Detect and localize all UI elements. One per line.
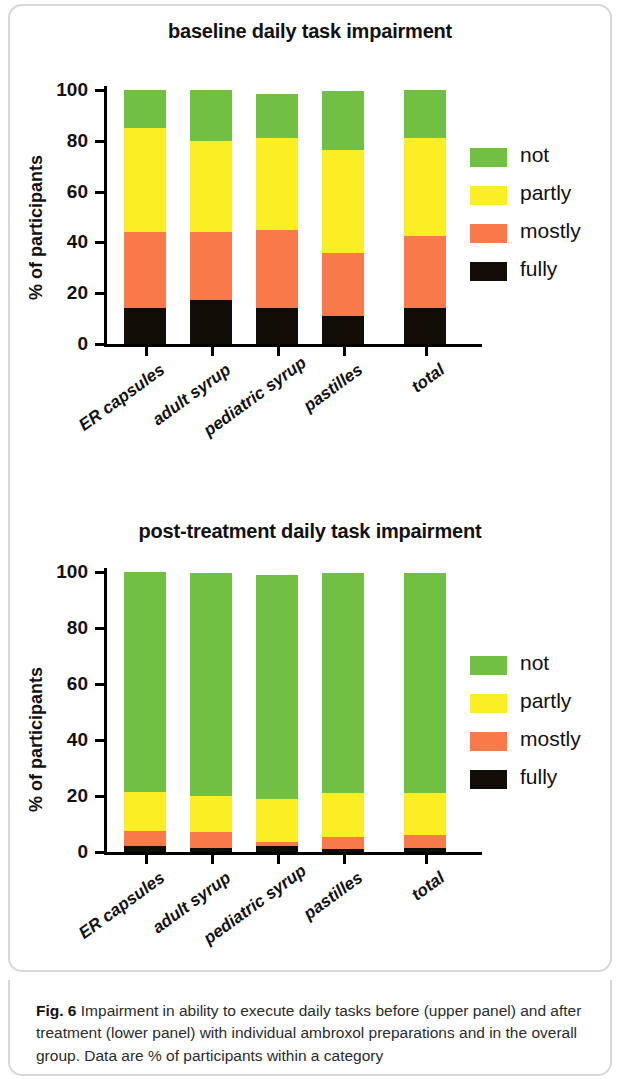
bar-segment-partly <box>190 796 232 832</box>
bar-segment-partly <box>190 141 232 232</box>
bar-pastilles <box>322 90 364 344</box>
legend-swatch-fully <box>470 770 507 789</box>
y-axis-tick <box>95 343 104 346</box>
bar-ER-capsules <box>124 572 166 852</box>
y-axis-tick <box>95 191 104 194</box>
bar-segment-mostly <box>190 232 232 299</box>
legend-label-fully: fully <box>520 257 557 281</box>
bar-segment-mostly <box>256 230 298 309</box>
bar-segment-partly <box>404 138 446 236</box>
bar-segment-not <box>124 572 166 792</box>
bar-segment-fully <box>404 308 446 344</box>
bar-segment-not <box>124 90 166 128</box>
bar-segment-mostly <box>322 253 364 317</box>
bar-segment-partly <box>404 793 446 835</box>
bar-ER-capsules <box>124 90 166 344</box>
figure-page: baseline daily task impairment % of part… <box>0 0 620 1079</box>
bar-segment-fully <box>190 848 232 852</box>
legend-swatch-partly <box>470 186 507 205</box>
x-axis-tick <box>211 855 214 864</box>
bar-segment-not <box>404 90 446 138</box>
bar-segment-mostly <box>124 232 166 308</box>
bar-segment-fully <box>404 848 446 852</box>
y-axis-tick-label: 20 <box>30 282 88 304</box>
y-axis-tick-label: 0 <box>30 841 88 863</box>
figure-caption: Fig. 6 Impairment in ability to execute … <box>36 1000 592 1067</box>
bar-segment-fully <box>322 849 364 852</box>
caption-label: Fig. 6 <box>36 1002 76 1019</box>
bar-pediatric-syrup <box>256 90 298 344</box>
x-axis-tick <box>343 347 346 356</box>
bar-segment-mostly <box>124 831 166 846</box>
legend-swatch-partly <box>470 694 507 713</box>
bar-segment-mostly <box>404 835 446 848</box>
y-axis-tick <box>95 571 104 574</box>
x-axis-tick <box>277 855 280 864</box>
bar-total <box>404 572 446 852</box>
y-axis-line <box>104 86 107 347</box>
y-axis-tick <box>95 140 104 143</box>
bar-segment-fully <box>124 846 166 852</box>
bar-segment-fully <box>256 846 298 852</box>
bar-segment-not <box>322 573 364 793</box>
y-axis-tick-label: 80 <box>30 130 88 152</box>
legend-swatch-fully <box>470 262 507 281</box>
legend-label-not: not <box>520 143 549 167</box>
legend-label-partly: partly <box>520 689 571 713</box>
legend-swatch-mostly <box>470 224 507 243</box>
x-axis-tick <box>425 855 428 864</box>
bar-pastilles <box>322 572 364 852</box>
bar-segment-partly <box>256 138 298 229</box>
y-axis-tick <box>95 292 104 295</box>
y-axis-tick-label: 60 <box>30 673 88 695</box>
x-axis-tick <box>145 347 148 356</box>
y-axis-tick <box>95 739 104 742</box>
legend-label-not: not <box>520 651 549 675</box>
y-axis-tick <box>95 683 104 686</box>
bar-segment-mostly <box>404 236 446 308</box>
y-axis-tick-label: 80 <box>30 617 88 639</box>
bar-adult-syrup <box>190 90 232 344</box>
legend-label-mostly: mostly <box>520 219 581 243</box>
plot-area-baseline: 020406080100ER capsulesadult syruppediat… <box>0 0 620 500</box>
bar-segment-not <box>190 90 232 141</box>
legend-swatch-mostly <box>470 732 507 751</box>
bar-segment-fully <box>322 316 364 344</box>
bar-adult-syrup <box>190 572 232 852</box>
legend-swatch-not <box>470 656 507 675</box>
bar-segment-partly <box>322 150 364 253</box>
x-axis-tick <box>211 347 214 356</box>
bar-segment-not <box>190 573 232 796</box>
bar-segment-mostly <box>322 837 364 850</box>
bar-segment-partly <box>124 128 166 232</box>
y-axis-line <box>104 568 107 855</box>
bar-segment-fully <box>124 308 166 344</box>
bar-pediatric-syrup <box>256 572 298 852</box>
bar-segment-mostly <box>190 832 232 847</box>
y-axis-tick <box>95 851 104 854</box>
y-axis-tick-label: 40 <box>30 231 88 253</box>
caption-text: Impairment in ability to execute daily t… <box>36 1002 581 1064</box>
bar-segment-not <box>256 575 298 799</box>
bar-segment-not <box>256 94 298 138</box>
legend-label-fully: fully <box>520 765 557 789</box>
y-axis-tick-label: 100 <box>30 561 88 583</box>
bar-segment-fully <box>190 300 232 344</box>
y-axis-tick-label: 0 <box>30 333 88 355</box>
bar-segment-not <box>322 91 364 149</box>
bar-segment-partly <box>322 793 364 836</box>
legend-label-mostly: mostly <box>520 727 581 751</box>
panel-post-treatment: post-treatment daily task impairment % o… <box>0 500 620 980</box>
y-axis-tick <box>95 627 104 630</box>
legend-swatch-not <box>470 148 507 167</box>
x-axis-tick <box>343 855 346 864</box>
x-axis-tick <box>425 347 428 356</box>
x-axis-tick <box>145 855 148 864</box>
bar-segment-mostly <box>256 842 298 846</box>
x-axis-tick <box>277 347 280 356</box>
y-axis-tick-label: 20 <box>30 785 88 807</box>
y-axis-tick <box>95 241 104 244</box>
bar-segment-partly <box>256 799 298 842</box>
bar-total <box>404 90 446 344</box>
bar-segment-not <box>404 573 446 793</box>
